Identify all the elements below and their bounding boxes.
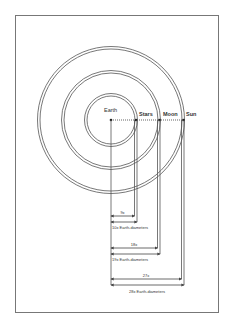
cosmos-diagram: Earth Stars Moon Sun 9x 10x Earth-diamet… — [0, 0, 232, 328]
earth-label: Earth — [104, 107, 117, 113]
moon-dot — [158, 119, 161, 122]
sun-label: Sun — [186, 111, 197, 117]
moon-label: Moon — [163, 111, 178, 117]
sun-inner-label: 27x — [143, 273, 149, 278]
moon-inner-label: 18x — [131, 242, 137, 247]
diagram-frame — [16, 16, 219, 313]
sun-outer-label: 28x Earth-diameters — [129, 289, 165, 294]
stars-label: Stars — [139, 111, 153, 117]
stars-inner-label: 9x — [120, 210, 124, 215]
sun-dot — [182, 119, 185, 122]
stars-outer-label: 10x Earth-diameters — [112, 225, 148, 230]
moon-outer-label: 19x Earth-diameters — [112, 257, 148, 262]
